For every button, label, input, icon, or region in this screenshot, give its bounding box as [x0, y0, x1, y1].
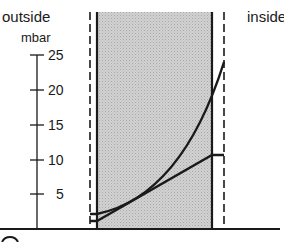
circle-marker-icon	[2, 237, 18, 242]
inside-label: inside	[247, 9, 284, 24]
diagram: outside inside mbar 25 20 15 10 5	[0, 0, 284, 242]
tick-label-15: 15	[48, 118, 64, 132]
tick-label-10: 10	[48, 153, 64, 167]
tick-label-5: 5	[56, 187, 64, 201]
tick-label-25: 25	[48, 48, 64, 62]
wall-region	[97, 12, 212, 229]
unit-label: mbar	[21, 31, 51, 44]
outside-label: outside	[2, 9, 50, 24]
tick-label-20: 20	[48, 83, 64, 97]
